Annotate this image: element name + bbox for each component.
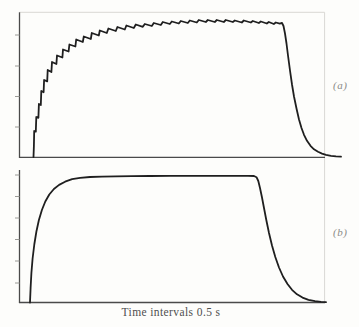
panel-a-label: (a) bbox=[333, 79, 359, 92]
panel-a-curve bbox=[34, 20, 342, 157]
panel-b-label: (b) bbox=[333, 226, 359, 239]
figure: (a) (b) Time intervals 0.5 s bbox=[0, 0, 359, 327]
panel-b bbox=[15, 170, 326, 303]
figure-canvas bbox=[0, 0, 359, 327]
panel-b-y-ticks bbox=[15, 175, 20, 283]
x-axis-label: Time intervals 0.5 s bbox=[122, 306, 221, 318]
panel-a-y-ticks bbox=[15, 35, 20, 127]
panel-b-curve bbox=[30, 176, 326, 303]
panel-a bbox=[15, 12, 341, 157]
